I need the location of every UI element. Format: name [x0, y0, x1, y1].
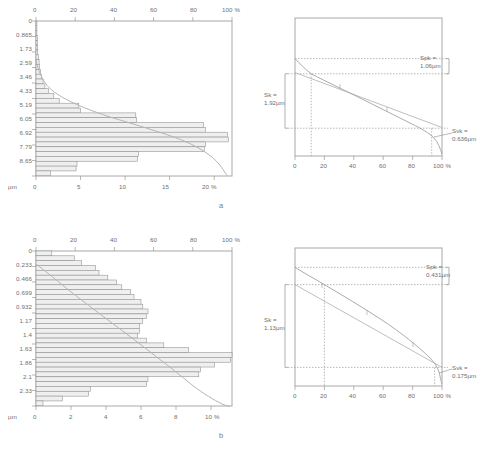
histogram-b-graphic	[0, 230, 250, 445]
annotation-sk-b: Sk = 1.13µm	[264, 316, 285, 332]
annotation-spk-b-value: 0.431µm	[426, 271, 450, 279]
axis-label-x-abba-80: 80	[408, 162, 415, 169]
annotation-spk-a-value: 1.06µm	[420, 62, 441, 70]
annotation-sk-a: Sk = 1.92µm	[264, 91, 285, 107]
annotation-svk-a: Svk = 0.636µm	[452, 127, 476, 143]
annotation-sk-b-label: Sk =	[264, 316, 285, 324]
annotation-sk-a-value: 1.92µm	[264, 99, 285, 107]
axis-label-x-abbb-20: 20	[320, 392, 327, 399]
abbott-panel-b: 0 20 40 60 80 100 % Spk = 0.431µm Sk = 1…	[270, 236, 487, 426]
axis-label-x-abba-100: 100 %	[433, 162, 451, 169]
annotation-spk-b-label: Spk =	[426, 263, 450, 271]
annotation-spk-a-label: Spk =	[420, 54, 441, 62]
annotation-svk-b-value: 0.175µm	[452, 372, 476, 380]
axis-label-x-abba-0: 0	[293, 162, 297, 169]
figure-caption-b: b	[219, 431, 223, 440]
histogram-a-graphic	[0, 0, 250, 215]
abbott-panel-a: 0 20 40 60 80 100 % Spk = 1.06µm Sk = 1.…	[270, 6, 487, 196]
axis-label-x-abbb-100: 100 %	[433, 392, 451, 399]
annotation-svk-a-value: 0.636µm	[452, 135, 476, 143]
axis-label-x-abba-60: 60	[379, 162, 386, 169]
annotation-sk-b-value: 1.13µm	[264, 324, 285, 332]
axis-label-x-abba-40: 40	[349, 162, 356, 169]
annotation-spk-a: Spk = 1.06µm	[420, 54, 441, 70]
figure-caption-a: a	[219, 201, 223, 210]
annotation-sk-a-label: Sk =	[264, 91, 285, 99]
axis-label-x-abbb-60: 60	[379, 392, 386, 399]
annotation-spk-b: Spk = 0.431µm	[426, 263, 450, 279]
histogram-panel-a: 0 20 40 60 80 100 % 0 0.865 1.73 2.59 3.…	[0, 0, 250, 215]
histogram-panel-b: 0 20 40 60 80 100 % 0 0.233 0.466 0.699 …	[0, 230, 250, 445]
annotation-svk-a-label: Svk =	[452, 127, 476, 135]
annotation-svk-b-label: Svk =	[452, 364, 476, 372]
axis-label-x-abbb-0: 0	[293, 392, 297, 399]
annotation-svk-b: Svk = 0.175µm	[452, 364, 476, 380]
axis-label-x-abba-20: 20	[320, 162, 327, 169]
axis-label-x-abbb-80: 80	[408, 392, 415, 399]
axis-label-x-abbb-40: 40	[349, 392, 356, 399]
